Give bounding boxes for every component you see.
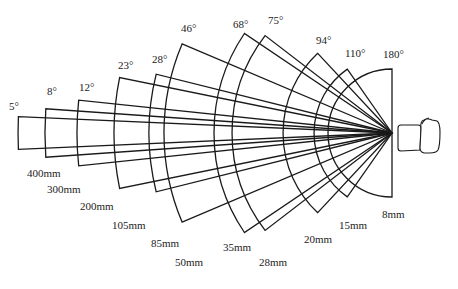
sector-50mm [164,44,392,222]
sector-85mm [149,74,392,192]
focal-length-label: 28mm [259,256,288,268]
angle-label: 5° [9,100,19,112]
focal-length-label: 85mm [151,237,180,249]
camera-icon [398,118,440,153]
sector-200mm [77,100,392,166]
sector-28mm [232,36,392,231]
angle-label: 94° [316,34,331,46]
focal-length-label: 8mm [382,208,405,220]
focal-length-label: 35mm [223,241,252,253]
angle-label: 110° [345,47,366,59]
angle-label: 180° [383,48,404,60]
angle-label: 23° [118,59,133,71]
angle-label: 8° [47,85,57,97]
sector-35mm [214,34,392,233]
focal-length-label: 20mm [304,233,333,245]
focal-length-label: 50mm [175,256,204,268]
angle-label: 28° [152,53,167,65]
angle-label: 75° [268,14,283,26]
focal-labels-group: 400mm300mm200mm105mm85mm50mm35mm28mm20mm… [27,167,405,268]
sectors-group [18,34,392,233]
focal-length-label: 105mm [112,219,146,231]
focal-length-label: 400mm [27,167,61,179]
sector-105mm [114,78,392,189]
focal-length-label: 15mm [339,219,368,231]
angle-label: 46° [181,22,196,34]
angle-label: 12° [79,81,94,93]
angle-label: 68° [233,18,248,30]
focal-length-label: 300mm [47,183,81,195]
sector-300mm [45,109,392,157]
angle-of-view-diagram: 5°8°12°23°28°46°68°75°94°110°180° 400mm3… [0,0,458,289]
focal-length-label: 200mm [80,200,114,212]
